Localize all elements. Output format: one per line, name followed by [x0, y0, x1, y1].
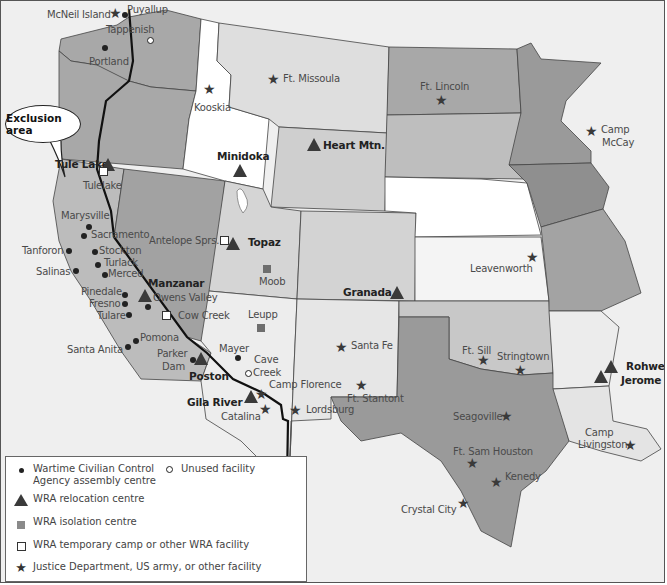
triangle-icon — [138, 289, 152, 302]
legend-label: WRA isolation centre — [33, 516, 137, 528]
label-tulare: Tulare — [97, 310, 126, 321]
label-tappenish: Tappenish — [106, 24, 154, 35]
label-pomona: Pomona — [140, 332, 179, 343]
label-gila-river: Gila River — [187, 397, 242, 408]
dot-icon — [235, 355, 241, 361]
map-frame: Exclusion area McNeil Island ★ Puyallup … — [0, 0, 665, 583]
label-marysville: Marysville — [61, 210, 109, 221]
state-missouri — [541, 209, 641, 311]
dot-icon — [92, 249, 98, 255]
label-rohwer: Rohwer — [626, 361, 665, 372]
label-sacramento: Sacramento — [91, 229, 149, 240]
label-topaz: Topaz — [248, 237, 281, 248]
label-kooskia: Kooskia — [194, 102, 231, 113]
open-circle-icon — [147, 37, 154, 44]
label-camp-livingston-1: Camp — [585, 427, 613, 438]
star-icon: ★ — [267, 72, 280, 86]
label-cave-1: Cave — [254, 354, 278, 365]
triangle-icon — [194, 352, 208, 365]
label-ft-lincoln: Ft. Lincoln — [420, 81, 469, 92]
filled-square-icon — [263, 265, 271, 273]
star-icon: ★ — [203, 82, 216, 96]
label-antelope-sprs: Antelope Sprs. — [149, 235, 219, 246]
star-icon: ★ — [490, 475, 503, 489]
dot-icon — [73, 268, 79, 274]
label-fresno: Fresno — [89, 298, 121, 309]
star-icon: ★ — [466, 456, 479, 470]
label-tanforon: Tanforon — [22, 245, 63, 256]
label-granada: Granada — [343, 287, 392, 298]
exclusion-area-callout: Exclusion area — [5, 105, 81, 143]
star-icon: ★ — [109, 6, 122, 20]
star-icon: ★ — [255, 387, 268, 401]
label-camp-livingston-2: Livingston — [578, 439, 627, 450]
dot-icon — [66, 248, 72, 254]
dot-icon — [19, 468, 24, 473]
label-seagoville: Seagoville — [453, 411, 503, 422]
legend-item-justice: ★ Justice Department, US army, or other … — [14, 561, 261, 574]
label-heart-mtn: Heart Mtn. — [323, 140, 385, 151]
label-salinas: Salinas — [36, 266, 70, 277]
label-parker-2: Dam — [162, 361, 185, 372]
label-mcneil-island: McNeil Island — [47, 9, 111, 20]
label-minidoka: Minidoka — [217, 151, 269, 162]
dot-icon — [81, 233, 87, 239]
triangle-icon — [390, 286, 404, 299]
label-kenedy: Kenedy — [505, 471, 541, 482]
dot-icon — [95, 262, 101, 268]
label-stockton: Stockton — [99, 245, 141, 256]
label-camp-mccay-2: McCay — [602, 137, 634, 148]
star-icon: ★ — [435, 93, 448, 107]
legend-item-isolation: WRA isolation centre — [14, 516, 137, 529]
label-manzanar: Manzanar — [148, 278, 204, 289]
state-new-mexico — [289, 299, 399, 481]
label-leupp: Leupp — [248, 309, 278, 320]
dot-icon — [133, 338, 139, 344]
star-icon: ★ — [526, 250, 539, 264]
label-turlack: Turlack — [104, 257, 138, 268]
label-puyallup: Puyallup — [127, 4, 168, 15]
legend-label: Unused facility — [181, 463, 255, 475]
label-stringtown: Stringtown — [497, 351, 549, 362]
triangle-icon — [14, 494, 28, 506]
label-moob: Moob — [259, 276, 285, 287]
star-icon: ★ — [15, 562, 27, 574]
triangle-icon — [226, 237, 240, 250]
dot-icon — [102, 45, 108, 51]
label-camp-florence: Camp Florence — [269, 379, 341, 390]
label-lordsburg: Lordsburg — [306, 404, 354, 415]
label-ft-stantont: Ft. Stantont — [347, 393, 404, 404]
star-icon: ★ — [289, 403, 302, 417]
label-ft-sam-houston: Ft. Sam Houston — [453, 446, 533, 457]
label-santa-fe: Santa Fe — [351, 340, 393, 351]
label-camp-mccay-1: Camp — [601, 124, 629, 135]
state-arkansas — [549, 311, 619, 389]
open-square-icon — [17, 542, 26, 551]
label-poston: Poston — [189, 371, 229, 382]
label-jerome: Jerome — [621, 375, 661, 386]
legend-label: Agency assembly centre — [33, 475, 156, 486]
legend-label: Justice Department, US army, or other fa… — [33, 561, 261, 573]
open-circle-icon — [245, 370, 252, 377]
label-crystal-city: Crystal City — [401, 504, 456, 515]
label-parker-1: Parker — [157, 348, 187, 359]
legend-item-temporary: WRA temporary camp or other WRA facility — [14, 539, 249, 551]
dot-icon — [122, 292, 128, 298]
star-icon: ★ — [514, 363, 527, 377]
star-icon: ★ — [500, 409, 513, 423]
label-mayer: Mayer — [219, 343, 249, 354]
filled-square-icon — [17, 521, 25, 529]
triangle-icon — [307, 138, 321, 151]
legend-label: Wartime Civilian Control — [33, 463, 154, 474]
star-icon: ★ — [585, 124, 598, 138]
dot-icon — [125, 344, 131, 350]
state-south-dakota — [385, 113, 527, 179]
dot-icon — [126, 312, 132, 318]
label-cow-creek: Cow Creek — [178, 310, 230, 321]
label-portland: Portland — [89, 56, 129, 67]
label-pinedale: Pinedale — [81, 286, 122, 297]
open-square-icon — [99, 167, 108, 176]
filled-square-icon — [257, 324, 265, 332]
star-icon: ★ — [457, 496, 470, 510]
legend-label: WRA relocation centre — [33, 493, 144, 505]
